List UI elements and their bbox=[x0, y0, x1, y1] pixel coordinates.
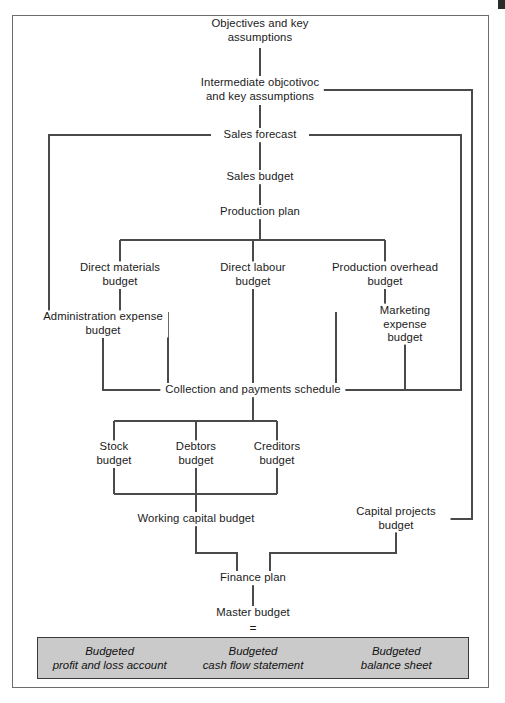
node-capital-projects-budget: Capital projects budget bbox=[342, 505, 451, 532]
node-debtors-budget: Debtors budget bbox=[171, 440, 221, 467]
node-administration-expense-budget: Administration expense budget bbox=[38, 310, 168, 337]
summary-item-budgeted-cash-flow: Budgeted cash flow statement bbox=[181, 644, 324, 672]
node-collection-and-payments-schedule: Collection and payments schedule bbox=[160, 383, 345, 397]
page-corner-mark bbox=[498, 0, 505, 9]
node-master-budget: Master budget bbox=[211, 606, 295, 620]
node-creditors-budget: Creditors budget bbox=[249, 440, 306, 467]
diagram-frame bbox=[12, 15, 489, 688]
diagram-canvas: Objectives and key assumptions Intermedi… bbox=[0, 0, 505, 703]
summary-item-budgeted-profit-and-loss: Budgeted profit and loss account bbox=[38, 644, 181, 672]
node-direct-materials-budget: Direct materials budget bbox=[75, 261, 165, 288]
node-sales-forecast: Sales forecast bbox=[219, 128, 302, 142]
node-finance-plan: Finance plan bbox=[215, 571, 291, 585]
node-marketing-expense-budget: Marketing expense budget bbox=[355, 304, 455, 345]
node-production-overhead-budget: Production overhead budget bbox=[327, 261, 443, 288]
node-objectives: Objectives and key assumptions bbox=[206, 17, 313, 44]
summary-item-budgeted-balance-sheet: Budgeted balance sheet bbox=[325, 644, 468, 672]
node-stock-budget: Stock budget bbox=[91, 440, 136, 467]
node-working-capital-budget: Working capital budget bbox=[133, 512, 260, 526]
node-production-plan: Production plan bbox=[215, 205, 305, 219]
node-sales-budget: Sales budget bbox=[221, 170, 298, 184]
equals-sign: = bbox=[245, 621, 260, 635]
master-budget-components-box: Budgeted profit and loss account Budgete… bbox=[37, 637, 469, 679]
node-direct-labour-budget: Direct labour budget bbox=[215, 261, 290, 288]
node-intermediate-objectives: Intermediate objcotivoc and key assumpti… bbox=[196, 76, 324, 103]
